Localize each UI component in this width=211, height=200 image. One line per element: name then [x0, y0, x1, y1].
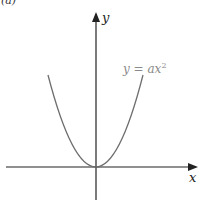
parabola-diagram: (a) y x y = ax2	[0, 0, 211, 200]
equation-text: y = ax	[122, 62, 162, 76]
panel-label: (a)	[1, 0, 16, 7]
x-axis-label: x	[189, 170, 197, 185]
equation-exponent: 2	[161, 61, 166, 70]
y-axis-label: y	[101, 10, 110, 25]
equation-label: y = ax2	[122, 61, 166, 76]
